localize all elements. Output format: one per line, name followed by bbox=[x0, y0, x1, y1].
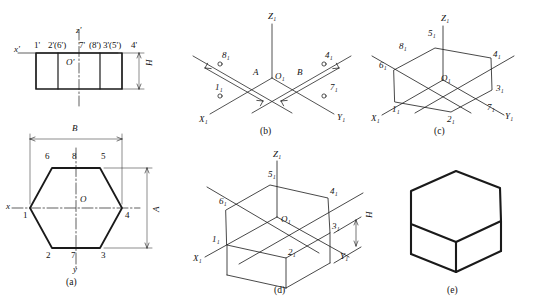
front-view-dimension-label-h: H bbox=[145, 60, 154, 67]
top-view-dimension-label-a: A bbox=[152, 207, 161, 213]
panel-b-caption: (b) bbox=[260, 127, 271, 137]
panel-b-point-marker-4 bbox=[322, 62, 326, 66]
panel-c-construction-line-8 bbox=[372, 56, 471, 113]
top-view-dimension-label-b: B bbox=[72, 124, 78, 133]
panel-d-axis-label-y: Y₁ bbox=[340, 252, 348, 261]
front-view-axis-label-z: z' bbox=[76, 26, 81, 35]
panel-c-point-label-5: 5₁ bbox=[428, 29, 436, 38]
panel-c-point-label-4: 4₁ bbox=[493, 50, 501, 59]
panel-c-point-label-8: 8₁ bbox=[399, 42, 407, 51]
panel-b-point-marker-1 bbox=[218, 94, 222, 98]
panel-c-axis-y bbox=[443, 80, 504, 115]
panel-c-point-label-2: 2₁ bbox=[447, 115, 455, 124]
panel-c-axis-label-z: Z₁ bbox=[441, 14, 449, 23]
panel-d-caption: (d) bbox=[274, 286, 285, 296]
front-view-vertex-label-8p: (8') bbox=[89, 41, 101, 50]
panel-d-point-label-6: 6₁ bbox=[219, 197, 227, 206]
panel-d-point-label-2: 2₁ bbox=[288, 248, 296, 257]
panel-d-axis-label-z: Z₁ bbox=[273, 150, 281, 159]
panel-b-axis-label-y: Y₁ bbox=[337, 113, 345, 122]
panel-d-point-label-4: 4₁ bbox=[330, 187, 338, 196]
front-view-origin-label: O' bbox=[66, 58, 74, 67]
panel-d-graphics bbox=[185, 145, 375, 295]
panel-b-dim-b-arrow-end bbox=[281, 100, 287, 105]
panel-b-point-label-7: 7₁ bbox=[330, 83, 338, 92]
panel-c-axis-label-y: Y₁ bbox=[505, 112, 513, 121]
panel-c-point-label-3: 3₁ bbox=[496, 84, 504, 93]
panel-b-point-marker-8 bbox=[218, 62, 222, 66]
panel-b-construction-line-8 bbox=[193, 56, 292, 113]
panel-b-point-label-1: 1₁ bbox=[215, 83, 223, 92]
panel-b-origin-label: O₁ bbox=[275, 72, 285, 81]
top-view-origin-label: O bbox=[80, 195, 87, 204]
panel-b-axis-label-z: Z₁ bbox=[268, 12, 276, 21]
panel-c-point-label-1: 1₁ bbox=[392, 105, 400, 114]
panel-b-axis-label-x: X₁ bbox=[199, 115, 208, 124]
panel-b-dimension-label-b: B bbox=[297, 68, 303, 77]
top-view-vertex-label-8: 8 bbox=[72, 152, 77, 161]
panel-d-bottom-edge-2-3 bbox=[286, 263, 330, 288]
panel-a-caption: (a) bbox=[66, 278, 77, 288]
panel-e-bottom-edge-right bbox=[456, 251, 501, 272]
panel-e-caption: (e) bbox=[447, 286, 458, 296]
front-view-vertex-label-2p6p: 2'(6') bbox=[48, 41, 66, 50]
panel-b-point-label-8: 8₁ bbox=[222, 51, 230, 60]
panel-d-point-label-5: 5₁ bbox=[268, 170, 276, 179]
panel-e-top-face bbox=[411, 171, 501, 242]
front-view-vertex-label-1p: 1' bbox=[34, 41, 40, 50]
front-view-vertex-label-4p: 4' bbox=[131, 41, 137, 50]
top-view-vertex-label-2: 2 bbox=[46, 251, 51, 260]
panel-c-point-label-7: 7₁ bbox=[487, 103, 495, 112]
panel-b-dimension-label-a: A bbox=[253, 68, 259, 77]
front-view-vertex-label-3p5p: 3'(5') bbox=[103, 41, 121, 50]
top-view-vertex-label-3: 3 bbox=[101, 251, 106, 260]
panel-c-axis-label-x: X₁ bbox=[371, 114, 380, 123]
panel-c-origin-label: O₁ bbox=[441, 74, 451, 83]
panel-b-point-marker-7 bbox=[322, 94, 326, 98]
panel-c-caption: (c) bbox=[434, 127, 445, 137]
front-view-vertex-label-7p: 7' bbox=[79, 41, 85, 50]
panel-b-dim-a-arrow-end bbox=[257, 100, 263, 105]
panel-c-point-label-6: 6₁ bbox=[379, 61, 387, 70]
top-view-vertex-label-4: 4 bbox=[125, 211, 130, 220]
top-view-vertex-label-1: 1 bbox=[23, 211, 28, 220]
top-view-axis-label-y: y bbox=[73, 265, 77, 274]
panel-e-graphics bbox=[384, 158, 539, 293]
drawing-sheet: x' z' O' 1' 2'(6') 7' (8') 3'(5') 4' H x… bbox=[0, 0, 539, 303]
panel-d-origin-label: O₁ bbox=[281, 215, 291, 224]
top-view-vertex-label-7: 7 bbox=[71, 251, 76, 260]
panel-d-axis-label-x: X₁ bbox=[193, 254, 202, 263]
top-view-axis-label-x: x bbox=[6, 202, 10, 211]
panel-a-graphics bbox=[0, 8, 190, 293]
top-view-vertex-label-5: 5 bbox=[101, 152, 106, 161]
panel-d-dimension-label-h: H bbox=[365, 212, 374, 219]
panel-d-point-label-1: 1₁ bbox=[212, 235, 220, 244]
panel-b-graphics bbox=[185, 8, 360, 143]
front-view-axis-label-x: x' bbox=[14, 45, 20, 54]
panel-b-point-label-4: 4₁ bbox=[325, 51, 333, 60]
panel-d-point-label-3: 3₁ bbox=[332, 222, 340, 231]
panel-d-top-hexagon bbox=[226, 185, 330, 258]
panel-e-bottom-edge-left bbox=[411, 254, 456, 272]
top-view-vertex-label-6: 6 bbox=[45, 152, 50, 161]
